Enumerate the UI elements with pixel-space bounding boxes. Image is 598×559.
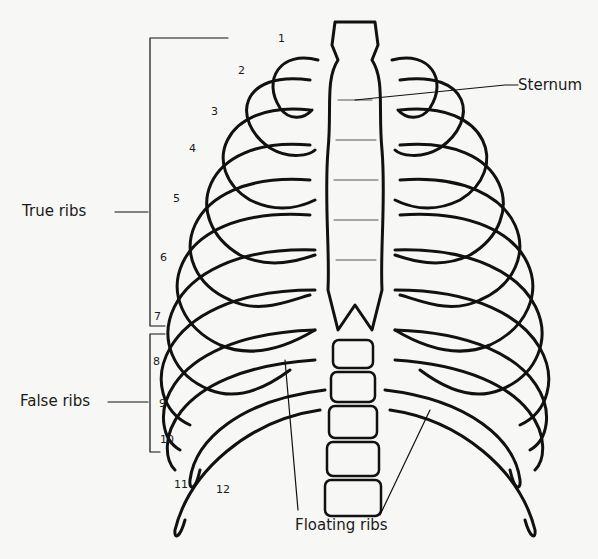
rib-number-6: 6 <box>160 251 167 264</box>
label-false-ribs: False ribs <box>20 392 90 410</box>
spine <box>325 340 381 516</box>
rib-number-7: 7 <box>154 310 161 323</box>
rib-number-4: 4 <box>189 142 196 155</box>
label-true-ribs: True ribs <box>22 202 86 220</box>
rib-number-3: 3 <box>211 105 218 118</box>
rib-number-2: 2 <box>238 64 245 77</box>
rib-number-9: 9 <box>159 397 166 410</box>
rib-number-10: 10 <box>160 433 174 446</box>
rib-number-12: 12 <box>216 483 230 496</box>
right-ribs <box>385 58 549 536</box>
rib-number-1: 1 <box>278 32 285 45</box>
sternum <box>327 22 384 330</box>
rib-cage-illustration <box>0 0 598 559</box>
rib-number-8: 8 <box>153 355 160 368</box>
label-floating-ribs: Floating ribs <box>295 516 388 534</box>
label-sternum: Sternum <box>518 76 582 94</box>
left-ribs <box>161 58 325 536</box>
rib-number-11: 11 <box>174 478 188 491</box>
rib-number-5: 5 <box>173 192 180 205</box>
